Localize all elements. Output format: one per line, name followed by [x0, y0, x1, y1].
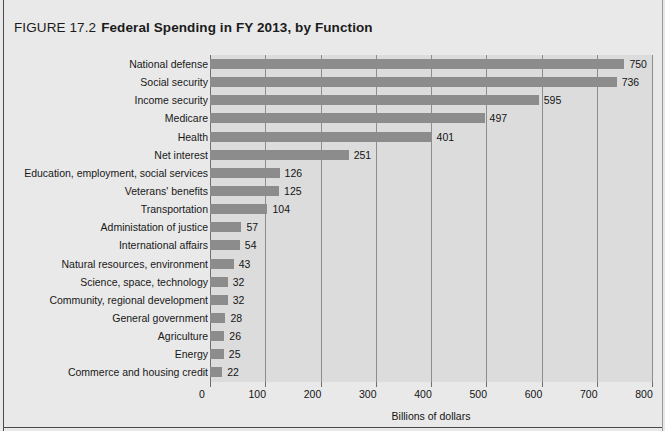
- bar-row: Community, regional development32: [14, 291, 652, 309]
- category-label: Agriculture: [158, 330, 208, 342]
- x-tick-600: [542, 382, 543, 387]
- bar-row: Commerce and housing credit22: [14, 363, 652, 381]
- bar-row: International affairs54: [14, 236, 652, 254]
- page-border-bottom: [3, 427, 662, 428]
- category-label: International affairs: [119, 239, 208, 251]
- bar-row: Social security736: [14, 73, 652, 91]
- x-tick-100: [265, 382, 266, 387]
- gridline-800: [652, 55, 653, 382]
- bar-row: Net interest251: [14, 146, 652, 164]
- x-tick-500: [486, 382, 487, 387]
- bar: [210, 204, 267, 214]
- x-tick-label: 500: [469, 388, 487, 400]
- category-label: Medicare: [165, 112, 208, 124]
- bar-value-label: 28: [230, 312, 242, 324]
- bar-value-label: 736: [622, 76, 640, 88]
- x-tick-label: 100: [248, 388, 266, 400]
- bar: [210, 222, 241, 232]
- bar-value-label: 750: [629, 58, 647, 70]
- bar-row: Agriculture26: [14, 327, 652, 345]
- category-label: Transportation: [141, 203, 208, 215]
- category-label: Community, regional development: [49, 294, 208, 306]
- x-tick-label: 0: [199, 388, 205, 400]
- bar-value-label: 125: [284, 185, 302, 197]
- bar: [210, 349, 224, 359]
- bar-row: Income security595: [14, 91, 652, 109]
- x-tick-200: [321, 382, 322, 387]
- bar-value-label: 251: [354, 149, 372, 161]
- category-label: Energy: [175, 348, 208, 360]
- bar-value-label: 497: [490, 112, 508, 124]
- bar-row: Energy25: [14, 345, 652, 363]
- bar-row: Natural resources, environment43: [14, 255, 652, 273]
- bar: [210, 186, 279, 196]
- bar-row: Administation of justice57: [14, 218, 652, 236]
- figure-title: Federal Spending in FY 2013, by Function: [101, 20, 373, 35]
- x-tick-label: 700: [580, 388, 598, 400]
- category-label: Education, employment, social services: [24, 167, 208, 179]
- bar: [210, 259, 234, 269]
- bar-rows: National defense750Social security736Inc…: [14, 55, 652, 382]
- bar-value-label: 22: [227, 366, 239, 378]
- bar-value-label: 54: [245, 239, 257, 251]
- bar: [210, 277, 228, 287]
- x-tick-label: 200: [304, 388, 322, 400]
- x-tick-0: [210, 382, 211, 387]
- category-label: Income security: [134, 94, 208, 106]
- bar: [210, 150, 349, 160]
- bar-value-label: 104: [272, 203, 290, 215]
- bar: [210, 113, 485, 123]
- category-label: National defense: [129, 58, 208, 70]
- bar-value-label: 595: [544, 94, 562, 106]
- bar: [210, 295, 228, 305]
- bar: [210, 132, 432, 142]
- bar: [210, 168, 280, 178]
- x-tick-label: 800: [635, 388, 653, 400]
- bar-row: General government28: [14, 309, 652, 327]
- x-tick-400: [431, 382, 432, 387]
- x-axis: Billions of dollars 01002003004005006007…: [14, 382, 652, 416]
- x-tick-800: [652, 382, 653, 387]
- bar: [210, 367, 222, 377]
- page-border-right: [662, 0, 663, 431]
- x-tick-700: [597, 382, 598, 387]
- bar-row: National defense750: [14, 55, 652, 73]
- bar-row: Health401: [14, 128, 652, 146]
- figure-caption: FIGURE 17.2Federal Spending in FY 2013, …: [14, 20, 373, 35]
- x-tick-label: 400: [414, 388, 432, 400]
- category-label: Natural resources, environment: [62, 258, 208, 270]
- category-label: Social security: [140, 76, 208, 88]
- bar-value-label: 126: [285, 167, 303, 179]
- bar-row: Medicare497: [14, 109, 652, 127]
- bar-row: Transportation104: [14, 200, 652, 218]
- bar-value-label: 32: [233, 276, 245, 288]
- figure-screenshot: FIGURE 17.2Federal Spending in FY 2013, …: [0, 0, 665, 431]
- bar-row: Education, employment, social services12…: [14, 164, 652, 182]
- category-label: General government: [112, 312, 208, 324]
- bar-value-label: 57: [246, 221, 258, 233]
- bar: [210, 95, 539, 105]
- category-label: Veterans' benefits: [125, 185, 208, 197]
- category-label: Administation of justice: [101, 221, 208, 233]
- bar: [210, 313, 225, 323]
- bar: [210, 77, 617, 87]
- category-label: Net interest: [154, 149, 208, 161]
- bar: [210, 331, 224, 341]
- x-tick-300: [376, 382, 377, 387]
- x-tick-label: 300: [359, 388, 377, 400]
- bar-row: Science, space, technology32: [14, 273, 652, 291]
- bar-row: Veterans' benefits125: [14, 182, 652, 200]
- figure-number: FIGURE 17.2: [14, 20, 96, 35]
- bar: [210, 59, 624, 69]
- x-axis-title: Billions of dollars: [210, 410, 652, 422]
- category-label: Science, space, technology: [80, 276, 208, 288]
- category-label: Commerce and housing credit: [68, 366, 208, 378]
- bar: [210, 240, 240, 250]
- page-border-left: [3, 0, 4, 431]
- x-tick-label: 600: [525, 388, 543, 400]
- bar-value-label: 43: [239, 258, 251, 270]
- bar-value-label: 401: [437, 131, 455, 143]
- bar-value-label: 25: [229, 348, 241, 360]
- category-label: Health: [178, 131, 208, 143]
- bar-value-label: 32: [233, 294, 245, 306]
